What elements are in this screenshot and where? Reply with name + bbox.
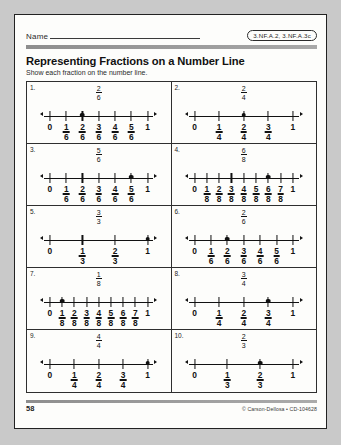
fraction-numerator: 7 bbox=[132, 309, 139, 317]
fraction-glyph: 33 bbox=[96, 209, 102, 225]
arrow-right-icon bbox=[300, 360, 303, 364]
number-line[interactable]: 01424341 bbox=[27, 356, 171, 390]
plotted-point[interactable] bbox=[145, 361, 150, 366]
plotted-point[interactable] bbox=[241, 113, 246, 118]
fraction-numerator: 4 bbox=[257, 247, 264, 255]
name-field-group[interactable]: Name bbox=[26, 32, 247, 41]
problem-cell[interactable]: 1.26016263646561 bbox=[27, 82, 172, 144]
plotted-point[interactable] bbox=[266, 175, 271, 180]
fraction-numerator: 5 bbox=[96, 147, 102, 154]
problem-cell[interactable]: 3.56016263646561 bbox=[27, 144, 172, 206]
problem-cell[interactable]: 2.2401424341 bbox=[172, 82, 317, 144]
name-write-line[interactable] bbox=[50, 38, 200, 39]
problem-fraction: 26 bbox=[27, 85, 171, 101]
tick-label-whole: 1 bbox=[145, 185, 150, 193]
fraction-numerator: 5 bbox=[108, 309, 115, 317]
arrow-right-icon bbox=[154, 298, 157, 302]
number-line-tick bbox=[123, 359, 124, 369]
fraction-numerator: 1 bbox=[59, 309, 66, 317]
fraction-numerator: 5 bbox=[128, 123, 135, 131]
fraction-denominator: 8 bbox=[95, 319, 102, 327]
arrow-left-icon bbox=[185, 174, 188, 178]
fraction-glyph: 18 bbox=[204, 185, 211, 204]
problem-cell[interactable]: 10.23013231 bbox=[172, 330, 317, 392]
fraction-denominator: 4 bbox=[95, 381, 102, 389]
fraction-denominator: 3 bbox=[112, 257, 119, 265]
problem-cell[interactable]: 9.4401424341 bbox=[27, 330, 172, 392]
arrow-right-icon bbox=[300, 112, 303, 116]
plotted-point[interactable] bbox=[225, 237, 230, 242]
number-line[interactable]: 016263646561 bbox=[172, 232, 317, 266]
number-line-tick bbox=[219, 297, 220, 307]
number-line[interactable]: 013231 bbox=[172, 356, 317, 390]
number-line-tick bbox=[280, 173, 281, 183]
plotted-point[interactable] bbox=[80, 113, 85, 118]
tick-label: 26 bbox=[79, 123, 86, 142]
number-line-tick bbox=[206, 173, 207, 183]
plotted-point[interactable] bbox=[145, 237, 150, 242]
number-line[interactable]: 01424341 bbox=[172, 294, 317, 328]
fraction-numerator: 4 bbox=[240, 185, 247, 193]
problem-cell[interactable]: 5.33013231 bbox=[27, 206, 172, 268]
number-line-tick bbox=[98, 297, 99, 307]
number-line[interactable]: 0182838485868781 bbox=[27, 294, 171, 328]
tick-label-whole: 0 bbox=[192, 371, 197, 379]
fraction-glyph: 56 bbox=[128, 123, 135, 142]
tick-label: 1 bbox=[145, 309, 150, 317]
arrow-left-icon bbox=[40, 298, 43, 302]
problem-cell[interactable]: 4.680182838485868781 bbox=[172, 144, 317, 206]
number-line[interactable]: 0182838485868781 bbox=[172, 170, 317, 204]
tick-label: 0 bbox=[48, 371, 53, 379]
tick-label-whole: 0 bbox=[48, 123, 53, 131]
tick-label-whole: 1 bbox=[291, 123, 296, 131]
tick-label: 0 bbox=[48, 309, 53, 317]
fraction-denominator: 6 bbox=[128, 195, 135, 203]
fraction-numerator: 6 bbox=[241, 147, 247, 154]
tick-label: 34 bbox=[120, 371, 127, 390]
fraction-glyph: 16 bbox=[63, 185, 70, 204]
fraction-glyph: 26 bbox=[241, 209, 247, 225]
fraction-glyph: 56 bbox=[273, 247, 280, 266]
tick-label-whole: 0 bbox=[192, 123, 197, 131]
number-line-tick bbox=[147, 297, 148, 307]
arrow-left-icon bbox=[40, 112, 43, 116]
arrow-left-icon bbox=[185, 236, 188, 240]
number-line[interactable]: 016263646561 bbox=[27, 170, 171, 204]
number-line-tick bbox=[114, 235, 115, 245]
problem-cell[interactable]: 8.3401424341 bbox=[172, 268, 317, 330]
number-line[interactable]: 013231 bbox=[27, 232, 171, 266]
problem-cell[interactable]: 7.180182838485868781 bbox=[27, 268, 172, 330]
tick-label: 24 bbox=[240, 123, 247, 142]
fraction-glyph: 14 bbox=[216, 309, 223, 328]
plotted-point[interactable] bbox=[258, 361, 263, 366]
fraction-numerator: 4 bbox=[112, 185, 119, 193]
number-line-tick bbox=[123, 297, 124, 307]
fraction-denominator: 8 bbox=[71, 319, 78, 327]
plotted-point[interactable] bbox=[60, 299, 65, 304]
fraction-denominator: 6 bbox=[224, 257, 231, 265]
fraction-denominator: 8 bbox=[228, 195, 235, 203]
fraction-glyph: 58 bbox=[108, 309, 115, 328]
fraction-glyph: 34 bbox=[120, 371, 127, 390]
number-line[interactable]: 01424341 bbox=[172, 108, 317, 142]
problem-cell[interactable]: 6.26016263646561 bbox=[172, 206, 317, 268]
number-line-tick bbox=[49, 235, 50, 245]
tick-label: 0 bbox=[192, 185, 197, 193]
fraction-denominator: 4 bbox=[240, 319, 247, 327]
fraction-numerator: 3 bbox=[265, 123, 272, 131]
tick-label: 1 bbox=[291, 247, 296, 255]
tick-label: 23 bbox=[112, 247, 119, 266]
tick-label: 18 bbox=[59, 309, 66, 328]
tick-label: 34 bbox=[265, 309, 272, 328]
plotted-point[interactable] bbox=[266, 299, 271, 304]
arrow-right-icon bbox=[154, 360, 157, 364]
plotted-point[interactable] bbox=[129, 175, 134, 180]
problem-fraction: 44 bbox=[27, 333, 171, 349]
fraction-denominator: 6 bbox=[63, 133, 70, 141]
fraction-numerator: 4 bbox=[96, 333, 102, 340]
fraction-numerator: 2 bbox=[240, 123, 247, 131]
number-line[interactable]: 016263646561 bbox=[27, 108, 171, 142]
fraction-glyph: 36 bbox=[95, 123, 102, 142]
number-line-tick bbox=[82, 235, 83, 245]
fraction-denominator: 4 bbox=[240, 133, 247, 141]
